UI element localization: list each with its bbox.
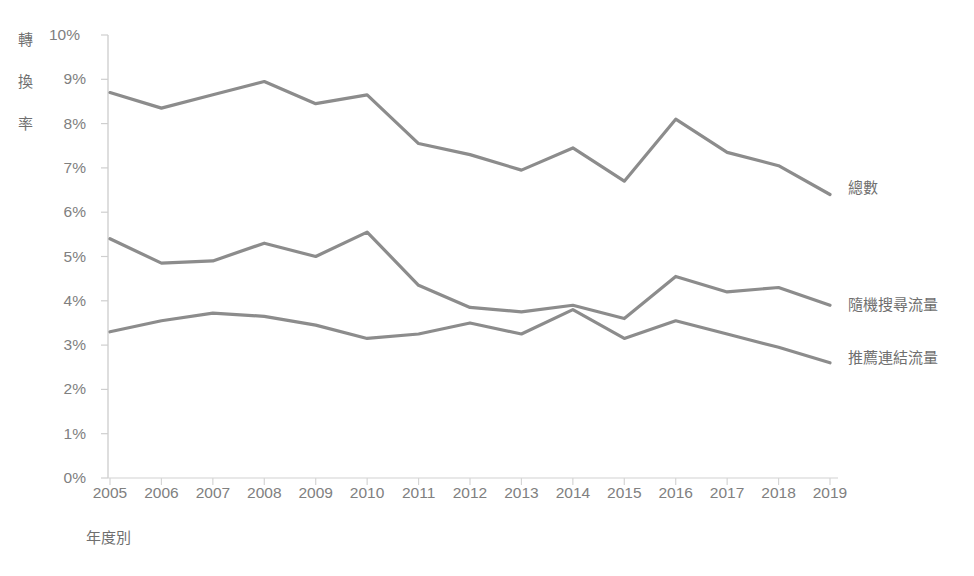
y-axis-ticks xyxy=(101,35,108,478)
series-line-total xyxy=(110,82,830,195)
series-line-referral xyxy=(110,310,830,363)
series-label-organic-search: 隨機搜尋流量 xyxy=(848,293,938,314)
plot-area xyxy=(0,0,974,576)
series-label-referral: 推薦連結流量 xyxy=(848,346,938,367)
line-chart: 轉 換 率 年度別 0% 1% 2% 3% 4% 5% 6% 7% 8% 9% … xyxy=(0,0,974,576)
series-label-total: 總數 xyxy=(848,175,878,196)
x-axis-ticks xyxy=(110,478,830,485)
series-group xyxy=(110,82,830,363)
series-line-organic-search xyxy=(110,232,830,318)
